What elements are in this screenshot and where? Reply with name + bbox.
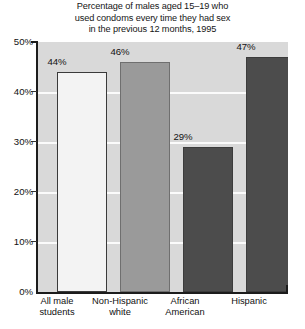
chart-title-line-2: used condoms every time they had sex <box>0 13 305 25</box>
y-axis-label-10: 10% <box>0 237 33 247</box>
bar-african-american[interactable] <box>183 147 233 292</box>
y-axis-label-40: 40% <box>0 87 33 97</box>
chart-title: Percentage of males aged 15–19 who used … <box>0 1 305 36</box>
x-axis-category-non-hispanic-white: Non-Hispanic white <box>84 296 156 319</box>
category-line: white <box>84 307 156 318</box>
value-label-non-hispanic-white: 46% <box>95 47 145 57</box>
category-line: African <box>152 296 218 307</box>
category-line: All male <box>24 296 90 307</box>
x-axis-category-hispanic: Hispanic <box>216 296 282 307</box>
value-label-hispanic: 47% <box>221 42 271 52</box>
bar-hispanic[interactable] <box>246 57 288 292</box>
y-axis-line <box>36 41 38 294</box>
category-line: American <box>152 307 218 318</box>
category-line: Hispanic <box>216 296 282 307</box>
category-line: students <box>24 307 90 318</box>
bar-all-male-students[interactable] <box>57 72 107 292</box>
x-axis-category-african-american: African American <box>152 296 218 319</box>
plot-area <box>38 42 288 292</box>
bar-non-hispanic-white[interactable] <box>120 62 170 292</box>
x-axis-line <box>36 292 288 294</box>
value-label-all-male-students: 44% <box>32 57 82 67</box>
chart-title-line-1: Percentage of males aged 15–19 who <box>0 1 305 13</box>
y-axis-label-30: 30% <box>0 137 33 147</box>
x-axis-end-tick <box>286 285 288 293</box>
category-line: Non-Hispanic <box>84 296 156 307</box>
value-label-african-american: 29% <box>158 132 208 142</box>
y-axis-label-20: 20% <box>0 187 33 197</box>
chart-title-line-3: in the previous 12 months, 1995 <box>0 24 305 36</box>
y-axis-label-50: 50% <box>0 37 33 47</box>
x-axis-category-all-male-students: All male students <box>24 296 90 319</box>
bar-chart: Percentage of males aged 15–19 who used … <box>0 0 305 329</box>
